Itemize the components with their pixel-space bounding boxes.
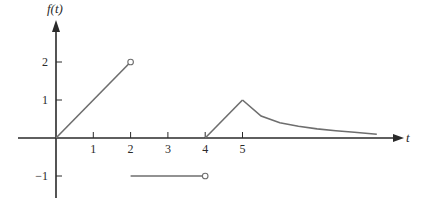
y-axis-label: f(t) (47, 1, 63, 16)
x-tick-label: 4 (202, 142, 208, 156)
x-tick-label: 1 (90, 142, 96, 156)
x-tick-label: 2 (128, 142, 134, 156)
open-circle-marker (128, 59, 134, 65)
x-tick-label: 3 (165, 142, 171, 156)
ticks: 1234521−1 (35, 55, 245, 183)
x-axis-label: t (406, 130, 410, 145)
y-tick-label: −1 (35, 169, 48, 183)
chart: 1234521−1 f(t) t (0, 0, 426, 209)
open-circle-marker (202, 173, 208, 179)
axes (18, 20, 404, 198)
x-axis-arrow-icon (393, 134, 404, 142)
series-decay (243, 100, 377, 134)
x-tick-label: 5 (240, 142, 246, 156)
y-tick-label: 1 (42, 93, 48, 107)
y-axis-arrow-icon (52, 20, 60, 32)
series-ramp (56, 62, 131, 138)
series-triangle-rise (205, 100, 242, 138)
series (56, 59, 377, 179)
y-tick-label: 2 (42, 55, 48, 69)
